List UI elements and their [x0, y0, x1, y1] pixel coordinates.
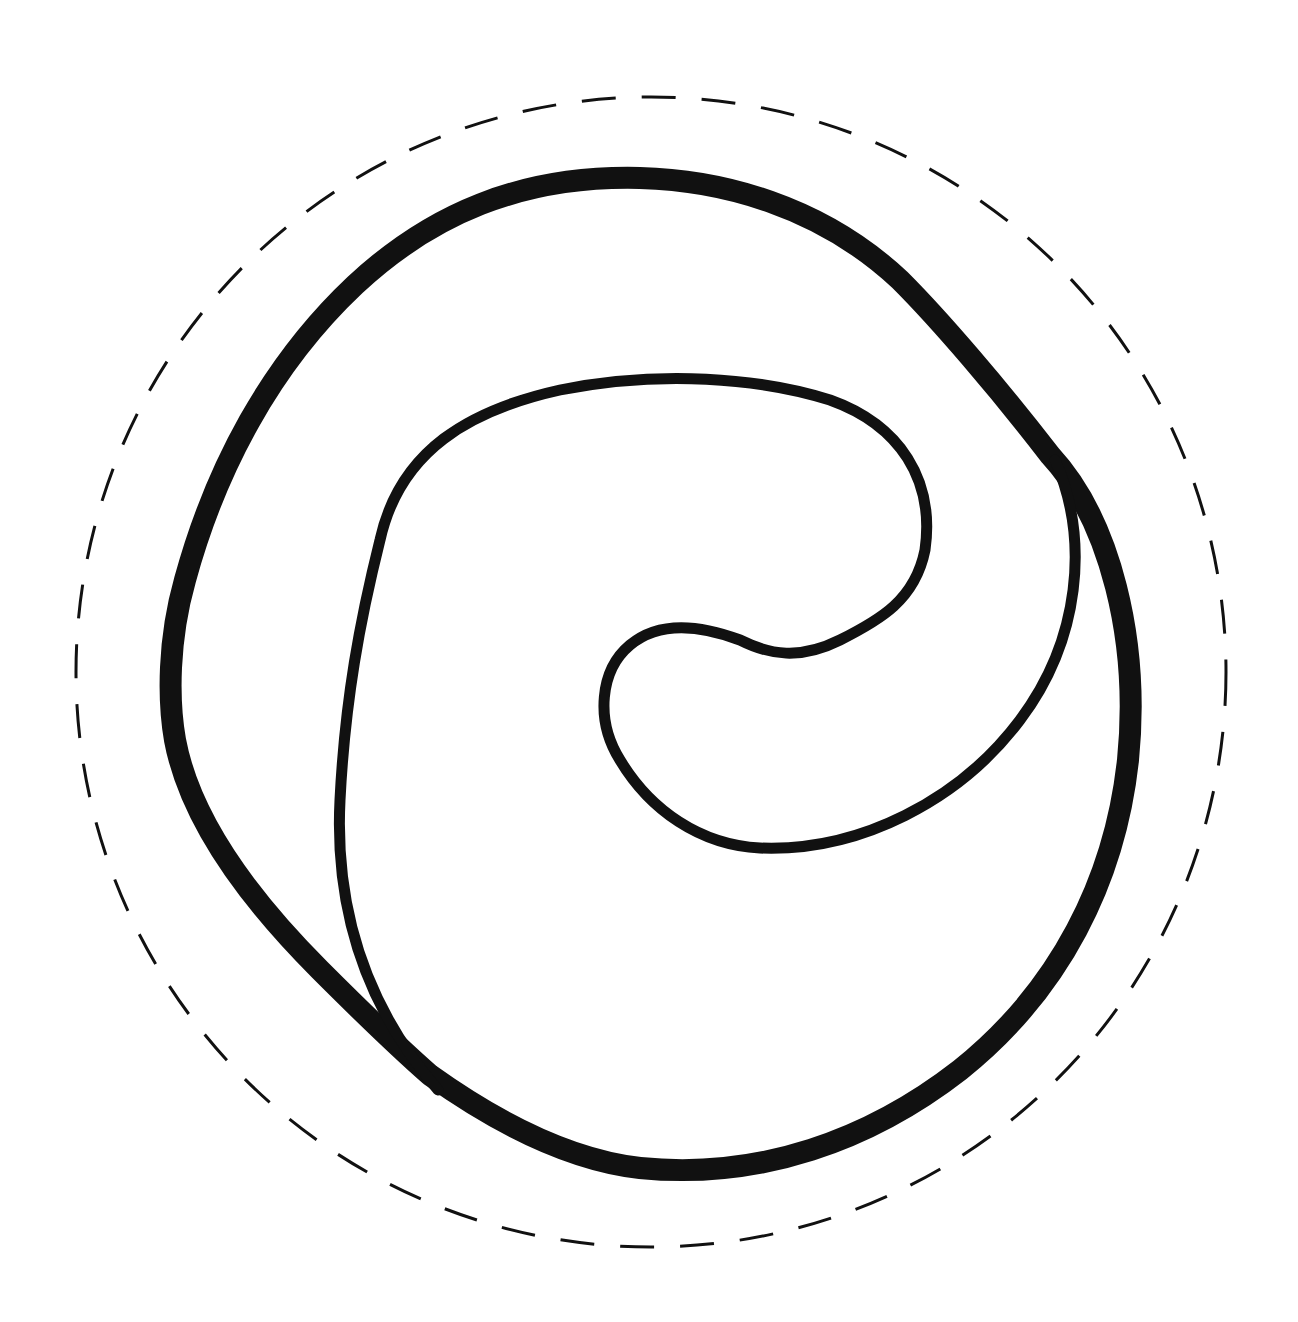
spiral-diagram: [0, 0, 1298, 1322]
diagram-canvas: [0, 0, 1298, 1322]
thin-inner-spiral: [339, 379, 1075, 1090]
thick-outer-loop: [171, 178, 1131, 1170]
